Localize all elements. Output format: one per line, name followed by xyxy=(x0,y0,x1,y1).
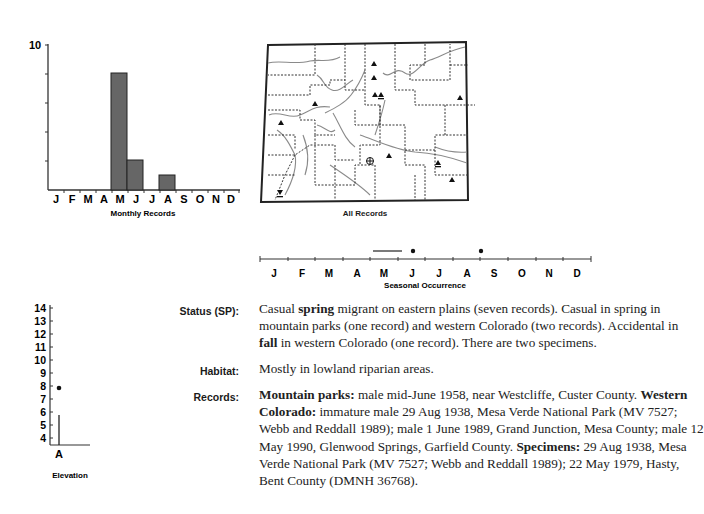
seasonal-caption: Seasonal Occurrence xyxy=(384,281,466,290)
elevation-tick: 4 xyxy=(40,432,46,444)
monthly-records-chart: 10 J F M A M J J A xyxy=(0,0,250,230)
month-label: M xyxy=(380,268,388,279)
month-label: O xyxy=(518,268,526,279)
month-label: J xyxy=(149,193,155,205)
elevation-tick: 7 xyxy=(40,393,46,405)
colorado-map-svg xyxy=(255,35,475,225)
bar-august xyxy=(159,175,175,190)
seasonal-svg: J F M A M J J A S O N D Seasonal Occurre… xyxy=(250,235,600,290)
elevation-category: A xyxy=(55,448,63,460)
month-label: A xyxy=(463,268,470,279)
habitat-label: Habitat: xyxy=(149,365,239,377)
elevation-tick: 9 xyxy=(40,367,46,379)
habitat-text: Mostly in lowland riparian areas. xyxy=(259,360,699,377)
month-label: S xyxy=(491,268,498,279)
circle-cross-marker-icon xyxy=(367,158,374,165)
month-label: M xyxy=(115,193,124,205)
elevation-tick: 10 xyxy=(34,354,46,366)
seasonal-occurrence-chart: J F M A M J J A S O N D Seasonal Occurre… xyxy=(250,235,600,290)
month-label: O xyxy=(196,193,205,205)
month-label: N xyxy=(545,268,552,279)
records-map: All Records xyxy=(255,35,475,225)
month-label: F xyxy=(299,268,305,279)
map-caption: All Records xyxy=(255,209,475,218)
bar-chart-svg: 10 J F M A M J J A xyxy=(0,0,250,230)
bar-june xyxy=(127,160,143,190)
records-label: Records: xyxy=(149,391,239,403)
elevation-tick: 12 xyxy=(34,328,46,340)
month-label: J xyxy=(409,268,415,279)
status-text: Casual spring migrant on eastern plains … xyxy=(259,300,699,352)
month-label: M xyxy=(325,268,333,279)
month-label: F xyxy=(69,193,76,205)
elevation-svg: 14 13 12 11 10 9 8 7 6 5 4 A Elevation xyxy=(20,295,140,490)
month-label: J xyxy=(271,268,277,279)
month-label: S xyxy=(180,193,187,205)
chart-caption: Monthly Records xyxy=(111,209,176,218)
bar-marker xyxy=(277,196,283,197)
month-label: J xyxy=(53,193,59,205)
elevation-caption: Elevation xyxy=(52,471,88,480)
elevation-tick: 14 xyxy=(34,302,46,314)
elevation-tick: 6 xyxy=(40,406,46,418)
month-label: D xyxy=(227,193,235,205)
month-label: J xyxy=(436,268,442,279)
elevation-point xyxy=(57,386,62,391)
elevation-tick: 11 xyxy=(35,341,46,353)
bar-marker xyxy=(378,98,384,99)
month-label: J xyxy=(133,193,139,205)
bar-marker xyxy=(435,166,441,167)
bar-may xyxy=(111,73,127,190)
month-label: N xyxy=(212,193,220,205)
month-label: M xyxy=(83,193,92,205)
month-label: D xyxy=(573,268,580,279)
status-label: Status (SP): xyxy=(149,305,239,317)
elevation-tick: 5 xyxy=(40,419,46,431)
month-label: A xyxy=(353,268,360,279)
occurrence-point xyxy=(479,249,483,253)
elevation-tick: 13 xyxy=(34,315,46,327)
month-label: A xyxy=(164,193,172,205)
records-text: Mountain parks: male mid-June 1958, near… xyxy=(259,386,704,489)
elevation-chart: 14 13 12 11 10 9 8 7 6 5 4 A Elevation xyxy=(20,295,140,490)
occurrence-point xyxy=(411,249,415,253)
y-axis-max-label: 10 xyxy=(29,39,41,51)
elevation-tick: 8 xyxy=(40,380,46,392)
month-label: A xyxy=(100,193,108,205)
